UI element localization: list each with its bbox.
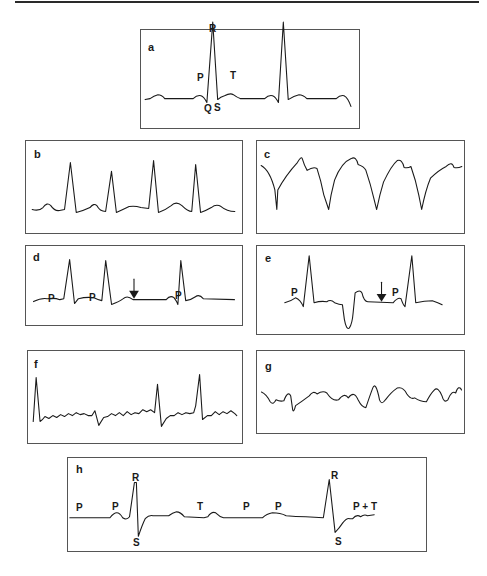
wave-label-r: R	[209, 24, 216, 34]
wave-label-p: P	[76, 503, 83, 513]
wave-label-p: P	[112, 502, 119, 512]
wave-label-s: S	[335, 537, 342, 547]
panel-e: e P P	[256, 245, 465, 335]
wave-label-p: P	[175, 291, 182, 301]
ecg-trace-ventricular-ectopic	[257, 246, 464, 334]
wave-label-p-plus-t: P + T	[353, 502, 377, 512]
wave-label-r: R	[331, 471, 338, 481]
wave-label-p: P	[392, 288, 399, 298]
panel-h: h P P R S T P P R S P + T	[67, 457, 427, 552]
wave-label-p: P	[48, 294, 55, 304]
wave-label-p: P	[243, 502, 250, 512]
ecg-trace-ventricular-tachycardia	[257, 141, 464, 233]
ecg-trace-normal	[141, 30, 359, 128]
wave-label-r: R	[132, 473, 139, 483]
top-rule	[15, 1, 479, 3]
ecg-trace-atrial-fibrillation	[28, 351, 242, 443]
ecg-trace-sinus-arrest	[26, 246, 242, 325]
panel-c: c	[256, 140, 465, 234]
panel-g: g	[256, 350, 465, 434]
panel-f: f	[27, 350, 243, 444]
wave-label-p: P	[197, 73, 204, 83]
ecg-trace-tachycardia	[26, 141, 242, 233]
wave-label-t: T	[197, 502, 203, 512]
wave-label-p: P	[291, 288, 298, 298]
wave-label-s: S	[133, 538, 140, 548]
wave-label-p: P	[275, 502, 282, 512]
panel-a: a R P T Q S	[140, 29, 360, 129]
ecg-trace-ventricular-fibrillation	[257, 351, 464, 433]
wave-label-p: P	[89, 293, 96, 303]
wave-label-s: S	[214, 103, 221, 113]
panel-b: b	[25, 140, 243, 234]
wave-label-q: Q	[204, 104, 212, 114]
panel-d: d P P P	[25, 245, 243, 326]
wave-label-t: T	[230, 71, 236, 81]
